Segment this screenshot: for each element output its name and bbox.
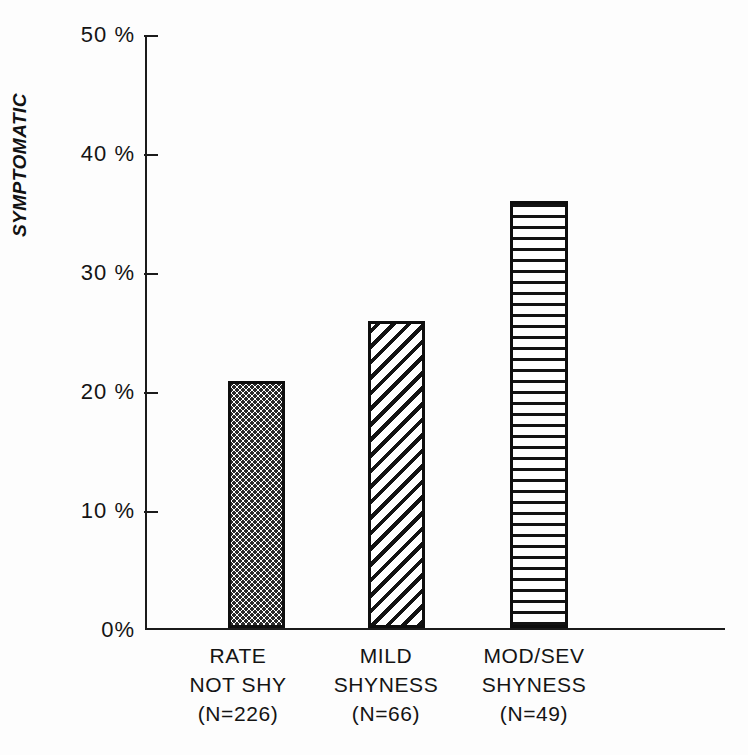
- bar-chart: SYMPTOMATIC 50 % 40 % 30 % 20 % 10 % 0% …: [0, 0, 748, 755]
- y-axis-title: SYMPTOMATIC: [0, 45, 40, 285]
- bar-rate-not-shy: [228, 381, 285, 628]
- y-tick-label-30: 30 %: [45, 260, 135, 286]
- bar-mod-sev-shyness: [510, 201, 568, 628]
- category-line-1: MOD/SEV: [470, 641, 598, 670]
- category-line-1: MILD: [326, 641, 446, 670]
- y-axis-tick-30: [144, 273, 158, 275]
- x-category-label-rate-not-shy: RATE NOT SHY (N=226): [178, 641, 298, 728]
- y-axis-tick-10: [144, 511, 158, 513]
- y-axis-tick-40: [144, 154, 158, 156]
- bar-mild-shyness: [368, 321, 425, 628]
- y-axis-tick-20: [144, 392, 158, 394]
- y-tick-label-50: 50 %: [45, 22, 135, 48]
- y-tick-label-0: 0%: [45, 617, 135, 643]
- x-axis-line: [145, 628, 725, 630]
- category-line-2: NOT SHY: [178, 670, 298, 699]
- category-line-2: SHYNESS: [326, 670, 446, 699]
- category-line-1: RATE: [178, 641, 298, 670]
- y-tick-label-20: 20 %: [45, 379, 135, 405]
- category-line-2: SHYNESS: [470, 670, 598, 699]
- y-tick-label-40: 40 %: [45, 141, 135, 167]
- y-axis-tick-50: [144, 35, 158, 37]
- category-line-3: (N=49): [470, 699, 598, 728]
- category-line-3: (N=66): [326, 699, 446, 728]
- y-axis-line: [145, 35, 147, 630]
- x-category-label-mod-sev-shyness: MOD/SEV SHYNESS (N=49): [470, 641, 598, 728]
- y-tick-label-10: 10 %: [45, 498, 135, 524]
- plot-area: [145, 35, 725, 630]
- category-line-3: (N=226): [178, 699, 298, 728]
- x-category-label-mild-shyness: MILD SHYNESS (N=66): [326, 641, 446, 728]
